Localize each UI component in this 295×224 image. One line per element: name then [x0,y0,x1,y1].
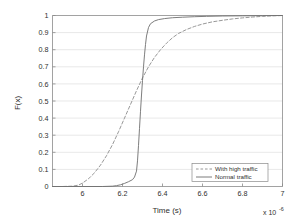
legend-label-normal-traffic: Normal traffic [215,173,252,180]
y-tick-label: 0.7 [39,62,49,71]
cdf-plot: 00.10.20.30.40.50.60.70.80.91 66.26.46.6… [0,0,295,224]
x-tick-label: 6.4 [158,189,168,198]
y-tick-label: 1 [45,11,49,20]
legend-label-with-high-traffic: With high traffic [215,165,258,172]
legend[interactable]: With high traffic Normal traffic [192,164,268,182]
y-tick-label: 0.8 [39,45,49,54]
x-axis-exponent: x 10 -6 [263,206,284,216]
y-axis-label: F(x) [13,96,22,111]
exponent-base: x 10 [263,209,276,216]
x-axis-ticks: 66.26.46.66.87 [81,184,285,199]
figure-canvas: 00.10.20.30.40.50.60.70.80.91 66.26.46.6… [0,0,295,224]
y-tick-label: 0 [45,182,49,191]
y-tick-label: 0.4 [39,114,49,123]
x-tick-label: 6 [81,189,85,198]
y-tick-label: 0.5 [39,97,49,106]
y-tick-label: 0.1 [39,165,49,174]
y-tick-label: 0.6 [39,80,49,89]
x-tick-label: 7 [281,189,285,198]
x-tick-label: 6.2 [118,189,128,198]
y-tick-label: 0.9 [39,28,49,37]
grid-lines [53,33,283,170]
x-axis-label: Time (s) [152,206,181,215]
x-tick-label: 6.8 [238,189,248,198]
y-tick-label: 0.3 [39,131,49,140]
exponent-power: -6 [279,206,284,212]
x-tick-label: 6.6 [198,189,208,198]
y-axis-ticks: 00.10.20.30.40.50.60.70.80.91 [39,11,56,191]
y-tick-label: 0.2 [39,148,49,157]
